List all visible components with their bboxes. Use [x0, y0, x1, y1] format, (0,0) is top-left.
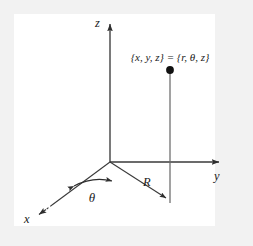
- point-coordinates-label: {x, y, z} = {r, θ, z}: [131, 51, 210, 63]
- figure-root: z y x R {x, y, z} = {r, θ, z} θ: [0, 0, 253, 246]
- coordinate-system-figure: z y x R {x, y, z} = {r, θ, z} θ: [0, 0, 253, 246]
- figure-inner-panel: [14, 14, 215, 226]
- plotted-point: [166, 66, 174, 74]
- azimuth-angle-label: θ: [89, 190, 96, 205]
- z-axis-label: z: [94, 16, 100, 30]
- radial-distance-label: R: [142, 175, 151, 189]
- x-axis-label: x: [23, 212, 30, 226]
- y-axis-label: y: [212, 169, 220, 183]
